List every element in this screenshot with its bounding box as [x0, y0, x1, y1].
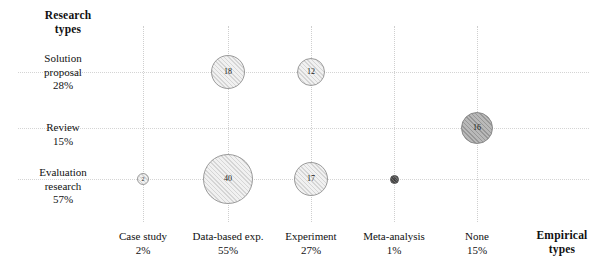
- row-label-evaluation-research: Evaluation research 57%: [10, 166, 116, 207]
- row-label-evaluation-research-line2: research: [10, 180, 116, 194]
- bubble-solution-proposal-data-based-exp[interactable]: 18: [211, 55, 245, 89]
- bubble-value: 40: [224, 175, 232, 183]
- bubble-evaluation-research-case-study[interactable]: 2: [137, 173, 149, 185]
- y-axis-title: Research types: [20, 8, 116, 36]
- y-axis-title-line2: types: [20, 22, 116, 36]
- bubble-value: 17: [307, 175, 315, 183]
- row-label-solution-proposal-line2: proposal: [10, 66, 116, 80]
- bubble-value: 18: [224, 68, 232, 76]
- row-label-review: Review 15%: [10, 121, 116, 148]
- column-label-none-name: None: [465, 230, 489, 242]
- bubble-evaluation-research-data-based-exp[interactable]: 40: [203, 154, 253, 204]
- bubble-value: 2: [142, 176, 145, 182]
- bubble-value: 12: [307, 68, 315, 76]
- bubble-review-none[interactable]: 16: [461, 112, 493, 144]
- gridline-vertical-meta-analysis: [394, 26, 395, 222]
- column-percent-none: 15%: [422, 243, 532, 257]
- row-percent-review: 15%: [10, 135, 116, 149]
- column-label-data-based-exp-name: Data-based exp.: [193, 230, 264, 242]
- row-label-solution-proposal-line1: Solution: [44, 52, 81, 64]
- row-percent-evaluation-research: 57%: [10, 193, 116, 207]
- column-label-meta-analysis-name: Meta-analysis: [363, 230, 425, 242]
- bubble-value: 16: [473, 124, 481, 132]
- bubble-evaluation-research-experiment[interactable]: 17: [294, 162, 328, 196]
- row-label-review-line1: Review: [46, 121, 80, 133]
- row-label-solution-proposal: Solution proposal 28%: [10, 52, 116, 93]
- gridline-vertical-case-study: [143, 26, 144, 222]
- bubble-solution-proposal-experiment[interactable]: 12: [297, 58, 325, 86]
- column-label-case-study-name: Case study: [119, 230, 167, 242]
- bubble-value: 1: [393, 177, 396, 182]
- bubble-evaluation-research-meta-analysis[interactable]: 1: [390, 175, 399, 184]
- bubble-matrix-chart: Research types Empirical types Solution …: [0, 0, 613, 278]
- column-label-experiment-name: Experiment: [285, 230, 336, 242]
- row-label-evaluation-research-line1: Evaluation: [39, 166, 87, 178]
- y-axis-title-line1: Research: [20, 8, 116, 22]
- row-percent-solution-proposal: 28%: [10, 79, 116, 93]
- column-label-none: None 15%: [422, 229, 532, 257]
